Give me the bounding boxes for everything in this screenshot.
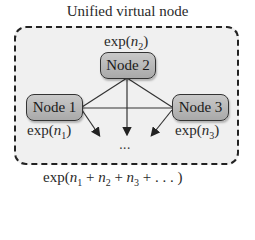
arrow-node1-more [82, 110, 99, 135]
node1-prob-label: exp(n1) [27, 122, 71, 141]
edge-node2-node1 [82, 78, 127, 107]
node2-prob-label: exp(n2) [104, 33, 148, 52]
node-1: Node 1 [26, 94, 83, 121]
node-3: Node 3 [172, 94, 229, 121]
edge-node2-node3 [127, 78, 172, 107]
arrow-node3-more [152, 110, 172, 135]
node3-prob-label: exp(n3) [175, 122, 219, 141]
more-nodes-ellipsis: ... [119, 138, 130, 152]
node-2: Node 2 [100, 52, 156, 79]
combined-prob-label: exp(n1 + n2 + n3 + . . . ) [43, 169, 183, 188]
